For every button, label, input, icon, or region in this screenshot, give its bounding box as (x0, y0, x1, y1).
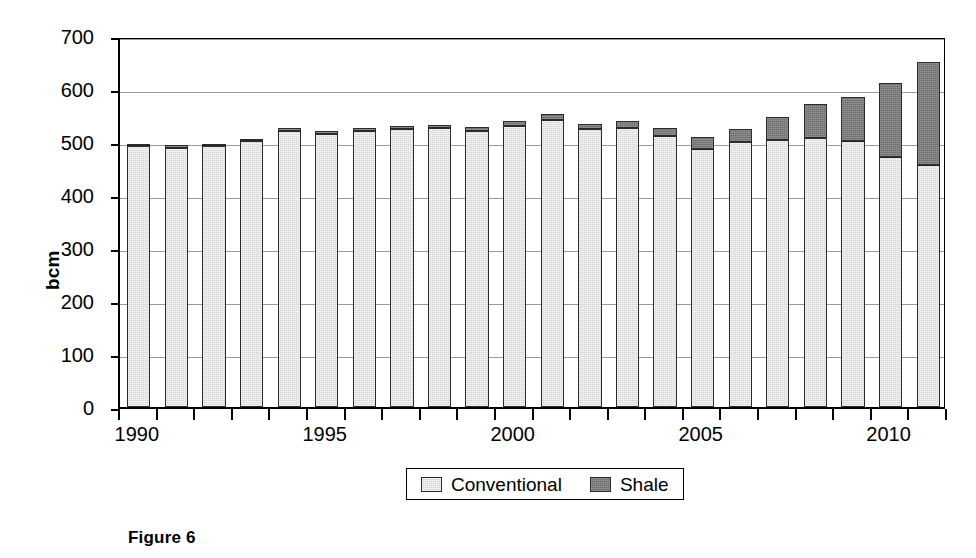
x-axis-tick (344, 409, 346, 420)
y-axis-tick-label: 300 (61, 239, 94, 259)
bar-1993[interactable] (240, 139, 263, 407)
x-axis-tick (456, 409, 458, 420)
figure-caption: Figure 6 (128, 528, 196, 548)
bar-1995[interactable] (315, 131, 338, 407)
x-axis-tick (231, 409, 233, 420)
bar-segment-conventional (240, 141, 263, 407)
bar-segment-shale (315, 131, 338, 134)
bar-2008[interactable] (804, 104, 827, 407)
bar-2001[interactable] (541, 114, 564, 407)
bar-2010[interactable] (879, 83, 902, 407)
bar-segment-conventional (465, 131, 488, 407)
legend-item-shale: Shale (590, 475, 669, 494)
bar-1992[interactable] (202, 144, 225, 407)
bar-segment-shale (240, 139, 263, 142)
bar-series-container (120, 39, 944, 407)
y-axis-tick-label: 200 (61, 292, 94, 312)
bar-segment-shale (578, 124, 601, 129)
x-axis-tick (719, 409, 721, 420)
bar-segment-conventional (841, 141, 864, 407)
y-axis-tick-label: 700 (61, 27, 94, 47)
bar-segment-conventional (616, 128, 639, 407)
bar-2003[interactable] (616, 121, 639, 407)
x-axis-tick-label: 1990 (115, 423, 160, 445)
bar-1999[interactable] (465, 127, 488, 407)
x-axis-tick (870, 409, 872, 420)
bar-segment-shale (879, 83, 902, 158)
x-axis-tick (494, 409, 496, 420)
bar-1990[interactable] (127, 144, 150, 407)
bar-segment-shale (616, 121, 639, 127)
bar-segment-shale (165, 145, 188, 148)
bar-segment-shale (353, 128, 376, 131)
y-axis-tick (111, 250, 120, 252)
y-axis-tick-label: 0 (83, 398, 94, 418)
y-axis-tick (111, 91, 120, 93)
bar-segment-conventional (691, 149, 714, 407)
x-axis-tick (118, 409, 120, 420)
bar-segment-conventional (315, 134, 338, 407)
bar-segment-conventional (879, 157, 902, 407)
x-axis-tick-label: 1995 (303, 423, 348, 445)
plot-area (118, 38, 945, 409)
bar-segment-conventional (278, 131, 301, 407)
bar-2000[interactable] (503, 121, 526, 407)
bar-segment-conventional (578, 129, 601, 407)
x-axis-tick-label: 2005 (678, 423, 723, 445)
bar-segment-conventional (541, 120, 564, 407)
x-axis-tick (193, 409, 195, 420)
bar-segment-shale (541, 114, 564, 119)
bar-segment-shale (465, 127, 488, 131)
bar-segment-conventional (428, 128, 451, 407)
x-axis-tick (757, 409, 759, 420)
bar-segment-shale (428, 125, 451, 129)
x-axis-tick (945, 409, 947, 420)
bar-1996[interactable] (353, 128, 376, 407)
bar-segment-shale (691, 137, 714, 149)
bar-segment-conventional (503, 126, 526, 407)
x-axis-tick (832, 409, 834, 420)
legend-label-shale: Shale (620, 475, 669, 494)
x-axis-tick (268, 409, 270, 420)
legend-label-conventional: Conventional (451, 475, 562, 494)
bar-segment-conventional (390, 129, 413, 407)
bar-segment-shale (390, 126, 413, 130)
y-axis-tick-label: 600 (61, 80, 94, 100)
y-axis-tick-label: 400 (61, 186, 94, 206)
x-axis-tick (306, 409, 308, 420)
y-axis-tick (111, 197, 120, 199)
bar-segment-conventional (766, 140, 789, 407)
x-axis-tick (907, 409, 909, 420)
bar-2004[interactable] (653, 128, 676, 407)
bar-2009[interactable] (841, 97, 864, 407)
bar-1998[interactable] (428, 125, 451, 407)
bar-segment-shale (841, 97, 864, 141)
bar-2002[interactable] (578, 124, 601, 407)
y-axis-tick (111, 303, 120, 305)
y-axis-tick-label: 100 (61, 345, 94, 365)
bar-segment-shale (917, 62, 940, 165)
y-axis-tick (111, 356, 120, 358)
bar-segment-conventional (353, 131, 376, 407)
bar-1991[interactable] (165, 145, 188, 407)
bar-2011[interactable] (917, 62, 940, 407)
x-axis-tick (607, 409, 609, 420)
bar-segment-shale (653, 128, 676, 136)
x-axis-tick-label: 2010 (866, 423, 911, 445)
bar-2005[interactable] (691, 137, 714, 407)
bar-segment-shale (804, 104, 827, 138)
bar-segment-conventional (127, 146, 150, 407)
bar-segment-shale (503, 121, 526, 126)
bar-1994[interactable] (278, 128, 301, 407)
bar-2006[interactable] (729, 129, 752, 407)
bar-1997[interactable] (390, 126, 413, 407)
bar-2007[interactable] (766, 117, 789, 407)
x-axis-tick (381, 409, 383, 420)
y-axis-tick (111, 144, 120, 146)
bar-segment-conventional (653, 136, 676, 407)
bar-segment-conventional (729, 142, 752, 407)
x-axis-tick-label: 2000 (490, 423, 535, 445)
x-axis-tick (569, 409, 571, 420)
bar-segment-conventional (202, 146, 225, 407)
x-axis: 19901995200020052010 (118, 409, 945, 449)
